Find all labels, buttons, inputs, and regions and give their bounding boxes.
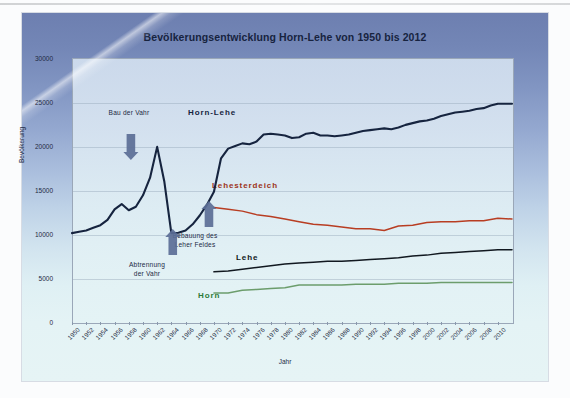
page-top-rule — [0, 3, 570, 5]
series-line-horn-lehe — [72, 104, 512, 233]
arrow-up-bebauung-leher-feldes — [201, 201, 216, 227]
series-line-horn — [214, 282, 512, 293]
series-line-lehe — [214, 250, 512, 272]
chart-image-card: Bevölkerungsentwicklung Horn-Lehe von 19… — [22, 13, 548, 381]
series-line-lehesterdeich — [214, 208, 512, 231]
page-root: Bevölkerungsentwicklung Horn-Lehe von 19… — [0, 0, 570, 398]
arrow-down-bau-der-vahr — [123, 134, 138, 160]
series-lines — [22, 13, 548, 381]
